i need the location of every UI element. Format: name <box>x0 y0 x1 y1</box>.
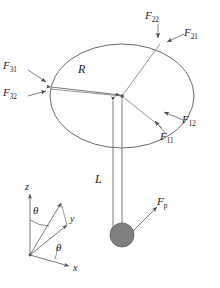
axis-label-y: y <box>70 214 74 224</box>
projection-line <box>61 203 67 225</box>
mechanics-diagram <box>0 0 220 288</box>
dimension-label-R: R <box>78 63 85 75</box>
angle-label-azimuth: θ <box>56 242 61 253</box>
force-label-F31: F31 <box>3 60 17 74</box>
arrow-F12 <box>164 112 183 120</box>
arrow-Fp <box>133 207 157 231</box>
axis-x <box>30 255 69 266</box>
angle-arc-polar <box>30 220 49 226</box>
arrow-F31 <box>28 70 46 82</box>
angle-label-polar: θ <box>33 205 38 216</box>
spoke-lower-right <box>122 96 162 128</box>
axis-label-z: z <box>25 182 29 192</box>
spoke-left <box>50 89 122 96</box>
pendulum-bob <box>110 223 134 247</box>
axis-y <box>30 225 67 255</box>
force-label-F12: F12 <box>182 114 196 128</box>
force-label-F21: F21 <box>184 27 198 41</box>
force-label-F11: F11 <box>160 131 173 145</box>
frame-origin <box>29 254 32 257</box>
force-label-Fp: Fp <box>157 196 167 210</box>
axis-label-x: x <box>73 263 77 273</box>
spoke-upper-right <box>122 44 160 96</box>
dimension-label-L: L <box>95 173 102 185</box>
radius-dimension <box>51 87 120 95</box>
arrow-F32 <box>28 91 46 96</box>
force-label-F32: F32 <box>3 87 17 101</box>
force-label-F22: F22 <box>145 10 159 24</box>
disk-spokes <box>50 44 162 128</box>
arrow-F21 <box>167 34 184 42</box>
